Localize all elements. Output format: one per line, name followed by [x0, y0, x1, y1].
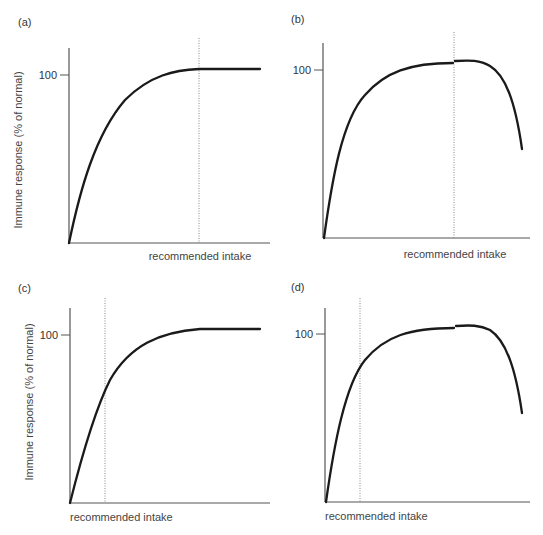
panel-label-c: (c)	[18, 282, 31, 294]
x-axis-label-c: recommended intake	[70, 511, 173, 523]
response-curve-a	[69, 69, 260, 243]
response-curve-d	[326, 325, 522, 502]
y-axis-label-a: Immune response (% of normal)	[12, 71, 24, 228]
panel-a: (a) Immune response (% of normal) 100 re…	[12, 16, 270, 262]
x-axis-label-b: recommended intake	[404, 248, 507, 260]
x-axis-label-a: recommended intake	[149, 250, 252, 262]
panel-label-b: (b)	[291, 13, 304, 25]
y-axis-label-c: Immune response (% of normal)	[23, 323, 35, 480]
panel-c: (c) Immune response (% of normal) 100 re…	[18, 282, 270, 523]
x-axis-label-d: recommended intake	[325, 510, 428, 522]
y-tick-label-b: 100	[293, 64, 311, 76]
y-tick-label-d: 100	[295, 328, 313, 340]
figure-canvas: (a) Immune response (% of normal) 100 re…	[0, 0, 543, 535]
panel-label-a: (a)	[18, 16, 31, 28]
y-tick-label-a: 100	[39, 69, 57, 81]
panel-d: (d) 100 recommended intake	[291, 281, 530, 522]
response-curve-c	[70, 329, 260, 503]
panel-b: (b) 100 recommended intake	[291, 13, 530, 260]
response-curve-b	[324, 61, 522, 238]
y-tick-label-c: 100	[40, 329, 58, 341]
panel-label-d: (d)	[291, 281, 304, 293]
